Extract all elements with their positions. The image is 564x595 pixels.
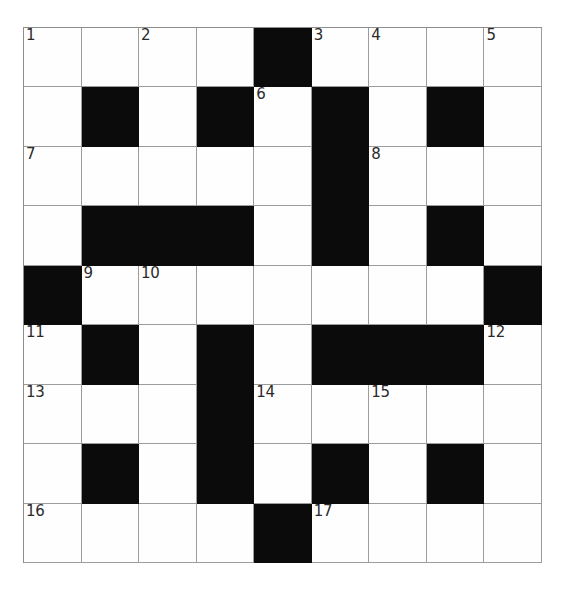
grid-cell-block xyxy=(427,87,485,146)
grid-cell[interactable] xyxy=(484,385,542,444)
grid-cell[interactable]: 2 xyxy=(139,28,197,87)
grid-cell[interactable]: 16 xyxy=(24,504,82,563)
grid-cell-block xyxy=(82,87,140,146)
grid-cell[interactable]: 5 xyxy=(484,28,542,87)
grid-cell-block xyxy=(197,325,255,384)
grid-cell-block xyxy=(312,444,370,503)
cell-number-16: 16 xyxy=(26,503,45,520)
grid-cell[interactable] xyxy=(24,87,82,146)
cell-number-7: 7 xyxy=(26,146,35,163)
grid-cell[interactable] xyxy=(82,147,140,206)
grid-cell-block xyxy=(82,325,140,384)
cell-number-11: 11 xyxy=(26,324,45,341)
grid-cell[interactable] xyxy=(369,504,427,563)
grid-cell[interactable] xyxy=(139,147,197,206)
cell-number-4: 4 xyxy=(371,27,380,44)
grid-cell[interactable] xyxy=(427,504,485,563)
grid-cell[interactable] xyxy=(427,147,485,206)
cell-number-15: 15 xyxy=(371,384,390,401)
grid-cell[interactable] xyxy=(484,504,542,563)
grid-cell[interactable] xyxy=(139,87,197,146)
grid-cell-block xyxy=(82,206,140,265)
grid-cell-block xyxy=(197,444,255,503)
grid-cell-block xyxy=(82,444,140,503)
cell-number-2: 2 xyxy=(141,27,150,44)
grid-cell[interactable] xyxy=(254,206,312,265)
crossword-puzzle: 1234567891011121314151617 xyxy=(0,0,564,595)
grid-cell[interactable]: 6 xyxy=(254,87,312,146)
grid-cell[interactable] xyxy=(24,206,82,265)
cell-number-3: 3 xyxy=(314,27,323,44)
grid-cell-block xyxy=(484,266,542,325)
grid-cell-block xyxy=(427,444,485,503)
grid-cell[interactable] xyxy=(369,206,427,265)
grid-cell[interactable] xyxy=(427,385,485,444)
cell-number-14: 14 xyxy=(256,384,275,401)
grid-cell[interactable] xyxy=(369,444,427,503)
grid-cell-block xyxy=(312,147,370,206)
grid-cell[interactable] xyxy=(254,147,312,206)
grid-cell[interactable]: 12 xyxy=(484,325,542,384)
cell-number-6: 6 xyxy=(256,86,265,103)
grid-cell[interactable] xyxy=(139,385,197,444)
grid-cell-block xyxy=(139,206,197,265)
cell-number-5: 5 xyxy=(486,27,495,44)
grid-cell[interactable] xyxy=(254,444,312,503)
grid-cell[interactable] xyxy=(427,28,485,87)
grid-cell[interactable] xyxy=(24,444,82,503)
grid-cell[interactable]: 7 xyxy=(24,147,82,206)
cell-number-10: 10 xyxy=(141,265,160,282)
grid-cell-block xyxy=(312,206,370,265)
grid-cell[interactable] xyxy=(254,266,312,325)
grid-cell[interactable]: 1 xyxy=(24,28,82,87)
grid-cell[interactable]: 15 xyxy=(369,385,427,444)
cell-number-12: 12 xyxy=(486,324,505,341)
grid-cell[interactable] xyxy=(82,504,140,563)
grid-cell[interactable]: 14 xyxy=(254,385,312,444)
grid-cell[interactable] xyxy=(484,444,542,503)
grid-cell[interactable]: 3 xyxy=(312,28,370,87)
grid-cell[interactable] xyxy=(197,28,255,87)
grid-cell[interactable]: 9 xyxy=(82,266,140,325)
grid-cell-block xyxy=(312,87,370,146)
grid-cell[interactable] xyxy=(197,266,255,325)
grid-cell[interactable] xyxy=(484,87,542,146)
grid-cell[interactable] xyxy=(369,87,427,146)
grid-cell[interactable] xyxy=(312,266,370,325)
grid-cell[interactable] xyxy=(484,147,542,206)
grid-cell-block xyxy=(312,325,370,384)
crossword-grid[interactable]: 1234567891011121314151617 xyxy=(23,27,542,563)
grid-cell[interactable]: 4 xyxy=(369,28,427,87)
grid-cell[interactable] xyxy=(427,266,485,325)
grid-cell[interactable]: 17 xyxy=(312,504,370,563)
grid-cell-block xyxy=(197,87,255,146)
grid-cell[interactable] xyxy=(312,385,370,444)
grid-cell[interactable]: 10 xyxy=(139,266,197,325)
cell-number-17: 17 xyxy=(314,503,333,520)
grid-cell-block xyxy=(197,206,255,265)
cell-number-13: 13 xyxy=(26,384,45,401)
grid-cell[interactable] xyxy=(254,325,312,384)
grid-cell[interactable] xyxy=(197,147,255,206)
grid-cell-block xyxy=(427,325,485,384)
grid-cell[interactable] xyxy=(369,266,427,325)
grid-cell[interactable]: 8 xyxy=(369,147,427,206)
grid-cell[interactable] xyxy=(139,504,197,563)
grid-cell-block xyxy=(24,266,82,325)
grid-cell-block xyxy=(427,206,485,265)
cell-number-9: 9 xyxy=(84,265,93,282)
grid-cell[interactable]: 11 xyxy=(24,325,82,384)
grid-cell[interactable] xyxy=(82,385,140,444)
cell-number-1: 1 xyxy=(26,27,35,44)
grid-cell[interactable] xyxy=(82,28,140,87)
grid-cell[interactable] xyxy=(197,504,255,563)
grid-cell[interactable] xyxy=(139,325,197,384)
grid-cell-block xyxy=(254,504,312,563)
grid-cell-block xyxy=(197,385,255,444)
grid-cell[interactable] xyxy=(139,444,197,503)
grid-cell-block xyxy=(254,28,312,87)
grid-cell[interactable] xyxy=(484,206,542,265)
cell-number-8: 8 xyxy=(371,146,380,163)
grid-cell-block xyxy=(369,325,427,384)
grid-cell[interactable]: 13 xyxy=(24,385,82,444)
